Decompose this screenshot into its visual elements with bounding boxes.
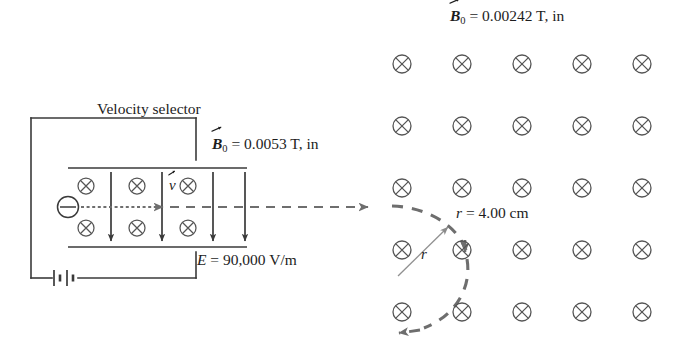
arc-return-arrow	[399, 330, 420, 333]
cross-in-circle-icon	[573, 179, 591, 197]
v-vector-symbol: v	[169, 178, 176, 193]
cross-in-circle-icon	[513, 55, 531, 73]
arc-upper-right	[392, 206, 466, 250]
cross-in-circle-icon	[573, 55, 591, 73]
cross-in-circle-icon	[633, 303, 651, 321]
electric-field-value: 90,000 V/m	[223, 251, 297, 268]
cross-in-circle-icon	[180, 220, 196, 236]
B-vector-symbol: B	[450, 8, 460, 24]
cross-in-circle-icon	[453, 179, 471, 197]
cross-in-circle-icon	[633, 179, 651, 197]
cross-in-circle-icon	[573, 303, 591, 321]
cross-in-circle-icon	[453, 117, 471, 135]
vector-arrow-icon	[211, 125, 222, 134]
equals-sign: =	[206, 251, 223, 268]
B-vector-symbol: B	[212, 136, 222, 152]
cross-in-circle-icon	[513, 117, 531, 135]
selector-B-value: 0.0053 T, in	[244, 135, 318, 152]
cross-in-circle-icon	[393, 117, 411, 135]
cross-in-circle-icon	[513, 241, 531, 259]
B-glyph: B	[212, 135, 222, 152]
equals-sign: =	[228, 135, 245, 152]
cross-in-circle-icon	[633, 241, 651, 259]
radius-value-label: r = 4.00 cm	[456, 205, 528, 221]
electric-field-label: E = 90,000 V/m	[197, 252, 297, 268]
cross-in-circle-icon	[129, 178, 145, 194]
cross-in-circle-icon	[573, 117, 591, 135]
cross-in-circle-icon	[78, 220, 94, 236]
cross-in-circle-icon	[633, 117, 651, 135]
field-region-B-label: B0 = 0.00242 T, in	[450, 8, 564, 26]
cross-in-circle-icon	[393, 179, 411, 197]
cross-in-circle-icon	[513, 303, 531, 321]
vector-arrow-icon	[168, 169, 176, 177]
diagram-vector-layer	[0, 0, 681, 359]
velocity-selector-label: Velocity selector	[97, 101, 201, 117]
v-glyph: v	[169, 177, 176, 193]
cross-in-circle-icon	[393, 303, 411, 321]
velocity-vector-label: v	[169, 178, 176, 193]
arc-lower-right	[424, 259, 468, 328]
battery-symbol	[54, 270, 73, 286]
B-glyph: B	[450, 7, 460, 24]
physics-diagram: B0 = 0.00242 T, in Velocity selector B0 …	[0, 0, 681, 359]
cross-in-circle-icon	[78, 178, 94, 194]
cross-in-circle-icon	[453, 303, 471, 321]
cross-in-circle-icon	[180, 178, 196, 194]
cross-in-circle-icon	[393, 55, 411, 73]
trajectory-direction-arrows	[399, 240, 465, 333]
vector-arrow-icon	[449, 0, 460, 6]
magnetic-field-grid	[393, 55, 651, 321]
radius-symbol-label: r	[421, 247, 427, 262]
equals-sign: =	[462, 204, 479, 221]
cross-in-circle-icon	[513, 179, 531, 197]
negative-charge-icon	[58, 197, 79, 218]
velocity-selector-circuit	[31, 118, 196, 278]
equals-sign: =	[466, 7, 483, 24]
field-region-B-value: 0.00242 T, in	[482, 7, 564, 24]
cross-in-circle-icon	[453, 55, 471, 73]
cross-in-circle-icon	[633, 55, 651, 73]
cross-in-circle-icon	[573, 241, 591, 259]
selector-B-label: B0 = 0.0053 T, in	[212, 136, 318, 154]
circular-trajectory-arc	[392, 206, 468, 328]
radius-value: 4.00 cm	[479, 204, 529, 221]
cross-in-circle-icon	[129, 220, 145, 236]
cross-in-circle-icon	[393, 241, 411, 259]
